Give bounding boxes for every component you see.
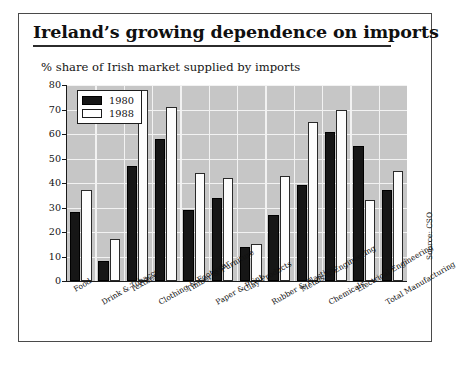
y-axis-tick-mark [62,110,66,111]
bar-1980-clothing-footwear [155,139,165,281]
legend-label-1980: 1980 [109,95,134,106]
gridline-vertical [209,85,210,281]
y-axis-tick-label: 20 [37,227,61,237]
y-axis-tick-label: 30 [37,203,61,213]
legend-swatch-icon-1988 [82,109,102,118]
chart-subtitle: % share of Irish market supplied by impo… [41,60,300,74]
legend-item-1980: 1980 [82,94,134,107]
title-block: Ireland’s growing dependence on imports [33,22,393,47]
bar-1988-chemicals [336,110,346,282]
bar-1980-chemicals [325,132,335,281]
gridline-vertical [265,85,266,281]
bar-1980-metals-engineering [297,185,307,281]
bar-1988-timber-furniture [195,173,205,281]
gridline-vertical [350,85,351,281]
bar-1988-electrical-engineering [365,200,375,281]
y-axis-tick-labels: 01020304050607080 [33,14,61,341]
bar-1980-textiles [127,166,137,281]
y-axis-line [66,85,67,282]
y-axis-tick-label: 60 [37,129,61,139]
bar-1980-drink-tobacco [98,261,108,281]
page-title: Ireland’s growing dependence on imports [33,22,393,42]
gridline-vertical [294,85,295,281]
gridline-vertical [152,85,153,281]
y-axis-tick-mark [62,232,66,233]
bar-1988-clothing-footwear [166,107,176,281]
x-axis-category-labels: FoodDrink & TobaccoTextilesClothing & Fo… [67,282,407,342]
y-axis-tick-mark [62,183,66,184]
bar-1980-food [70,212,80,281]
gridline-vertical [237,85,238,281]
chart-legend: 1980 1988 [77,90,142,124]
y-axis-tick-mark [62,281,66,282]
bar-1988-drink-tobacco [110,239,120,281]
y-axis-tick-label: 70 [37,105,61,115]
bar-1980-timber-furniture [183,210,193,281]
y-axis-tick-mark [62,85,66,86]
source-note: Source: CSO [425,212,434,260]
y-axis-tick-label: 50 [37,154,61,164]
legend-swatch-icon-1980 [82,96,102,105]
y-axis-tick-mark [62,257,66,258]
gridline-vertical [180,85,181,281]
legend-item-1988: 1988 [82,107,134,120]
gridline-vertical [379,85,380,281]
y-axis-tick-mark [62,159,66,160]
bar-1988-metals-engineering [308,122,318,281]
y-axis-tick-label: 0 [37,276,61,286]
y-axis-tick-mark [62,134,66,135]
y-axis-tick-label: 10 [37,252,61,262]
legend-label-1988: 1988 [109,108,134,119]
y-axis-tick-label: 80 [37,80,61,90]
bar-1988-food [81,190,91,281]
y-axis-tick-mark [62,208,66,209]
title-divider [33,45,391,47]
y-axis-tick-label: 40 [37,178,61,188]
gridline-vertical [322,85,323,281]
chart-figure: Ireland’s growing dependence on imports … [18,13,432,342]
